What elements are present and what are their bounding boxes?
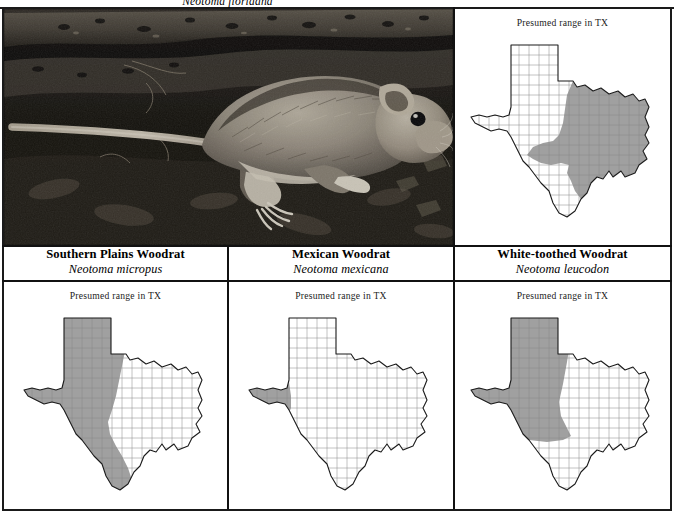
caption-white-toothed-woodrat: White-toothed Woodrat Neotoma leucodon [455, 247, 670, 280]
map-title: Presumed range in TX [455, 290, 670, 301]
top-species-scientific-name: Neotoma floridana [0, 0, 455, 7]
species-scientific-name: Neotoma leucodon [455, 262, 670, 277]
species-common-name: Southern Plains Woodrat [4, 247, 227, 262]
map-cell-southern-plains-woodrat: Presumed range in TX [4, 282, 227, 509]
map-texas-eastern-woodrat [455, 31, 670, 231]
map-texas-southern-plains-woodrat [4, 304, 227, 504]
map-cell-white-toothed-woodrat: Presumed range in TX [455, 282, 670, 509]
caption-southern-plains-woodrat: Southern Plains Woodrat Neotoma micropus [4, 247, 227, 280]
map-title: Presumed range in TX [4, 290, 227, 301]
species-scientific-name: Neotoma mexicana [229, 262, 453, 277]
map-cell-eastern-woodrat: Presumed range in TX [455, 9, 670, 245]
frame-border-right [670, 7, 672, 511]
species-common-name: White-toothed Woodrat [455, 247, 670, 262]
woodrat-photograph [4, 9, 453, 245]
species-scientific-name: Neotoma micropus [4, 262, 227, 277]
map-title: Presumed range in TX [229, 290, 453, 301]
species-plate: Neotoma floridana [0, 0, 674, 516]
species-common-name: Mexican Woodrat [229, 247, 453, 262]
caption-mexican-woodrat: Mexican Woodrat Neotoma mexicana [229, 247, 453, 280]
map-cell-mexican-woodrat: Presumed range in TX [229, 282, 453, 509]
map-title: Presumed range in TX [455, 17, 670, 28]
map-texas-mexican-woodrat [229, 304, 453, 504]
map-texas-white-toothed-woodrat [455, 304, 670, 504]
frame-border-bottom [2, 509, 672, 511]
